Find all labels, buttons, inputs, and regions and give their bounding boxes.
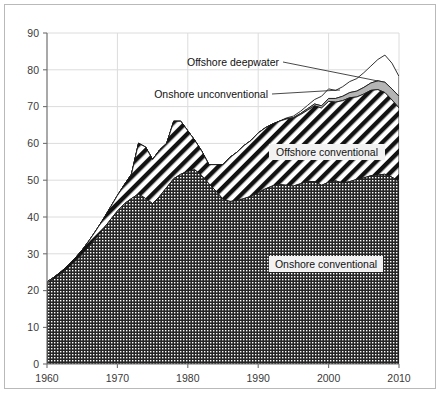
- y-tick-label: 90: [27, 27, 39, 39]
- figure-caption: [4, 396, 436, 408]
- y-tick-label: 0: [33, 358, 39, 370]
- y-tick-label: 40: [27, 211, 39, 223]
- x-tick-label: 2000: [317, 372, 341, 384]
- y-tick-label: 50: [27, 174, 39, 186]
- x-tick-label: 1960: [35, 372, 59, 384]
- y-tick-label: 20: [27, 284, 39, 296]
- x-axis-tick-labels: 1960 1970 1980 1990 2000 2010: [35, 372, 411, 384]
- y-tick-label: 10: [27, 321, 39, 333]
- x-tick-label: 1970: [106, 372, 130, 384]
- figure-container: 90 80 70 60 50 40 30 20 10 0 1960 1970 1…: [0, 0, 443, 410]
- x-tick-label: 2010: [387, 372, 411, 384]
- stacked-area-chart: 90 80 70 60 50 40 30 20 10 0 1960 1970 1…: [0, 0, 443, 410]
- label-onshore-conventional: Onshore conventional: [275, 258, 377, 270]
- x-tick-label: 1990: [247, 372, 271, 384]
- y-tick-label: 30: [27, 248, 39, 260]
- series-areas: [47, 55, 399, 364]
- leader-line-offshore-deepwater: [283, 62, 378, 81]
- label-onshore-unconventional: Onshore unconventional: [154, 88, 268, 100]
- y-tick-label: 60: [27, 137, 39, 149]
- label-offshore-deepwater: Offshore deepwater: [187, 56, 280, 68]
- x-tick-label: 1980: [176, 372, 200, 384]
- y-tick-label: 70: [27, 100, 39, 112]
- y-tick-label: 80: [27, 64, 39, 76]
- annotation-labels: Offshore deepwater Onshore unconventiona…: [154, 56, 279, 100]
- y-axis-tick-labels: 90 80 70 60 50 40 30 20 10 0: [27, 27, 39, 370]
- label-offshore-conventional: Offshore conventional: [276, 146, 378, 158]
